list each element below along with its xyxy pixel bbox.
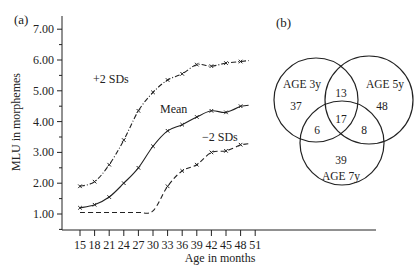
x-ticks: 15182124273033363942454851	[74, 230, 261, 252]
label-minus2sd: −2 SDs	[202, 130, 238, 144]
svg-text:39: 39	[191, 238, 203, 252]
venn-label-3y: AGE 3y	[283, 78, 321, 91]
venn-count-3y-5y: 13	[335, 87, 347, 99]
svg-text:1.00: 1.00	[33, 207, 54, 221]
svg-text:51: 51	[249, 238, 261, 252]
x-axis-label: Age in months	[185, 251, 256, 265]
svg-text:42: 42	[205, 238, 217, 252]
venn-circle-5y	[325, 56, 413, 144]
svg-text:27: 27	[132, 238, 144, 252]
venn-count-5y-only: 48	[376, 100, 388, 112]
panel-a-label: (a)	[14, 12, 28, 27]
figure: (a) 1.002.003.004.005.006.007.00 1518212…	[0, 0, 417, 273]
svg-text:21: 21	[103, 238, 115, 252]
venn-count-7y-only: 39	[335, 154, 347, 166]
svg-text:7.00: 7.00	[33, 22, 54, 36]
svg-text:18: 18	[89, 238, 101, 252]
label-mean: Mean	[160, 102, 187, 116]
svg-text:5.00: 5.00	[33, 84, 54, 98]
venn-count-all: 17	[335, 113, 347, 125]
label-plus2sd: +2 SDs	[93, 72, 129, 86]
svg-text:6.00: 6.00	[33, 53, 54, 67]
svg-text:30: 30	[147, 238, 159, 252]
venn-count-5y-7y: 8	[361, 124, 367, 136]
svg-text:4.00: 4.00	[33, 115, 54, 129]
venn-count-3y-7y: 6	[314, 124, 320, 136]
svg-text:48: 48	[235, 238, 247, 252]
venn-label-5y: AGE 5y	[366, 78, 404, 91]
svg-text:24: 24	[118, 238, 130, 252]
svg-text:15: 15	[74, 238, 86, 252]
svg-text:45: 45	[220, 238, 232, 252]
panel-b-label: (b)	[276, 15, 291, 30]
svg-text:2.00: 2.00	[33, 176, 54, 190]
svg-text:36: 36	[176, 238, 188, 252]
svg-text:3.00: 3.00	[33, 145, 54, 159]
venn-label-7y: AGE 7y	[322, 170, 360, 183]
y-axis-label: MLU in morphemes	[9, 73, 23, 171]
venn-count-3y-only: 37	[290, 100, 302, 112]
svg-text:33: 33	[162, 238, 174, 252]
y-ticks: 1.002.003.004.005.006.007.00	[33, 22, 62, 229]
